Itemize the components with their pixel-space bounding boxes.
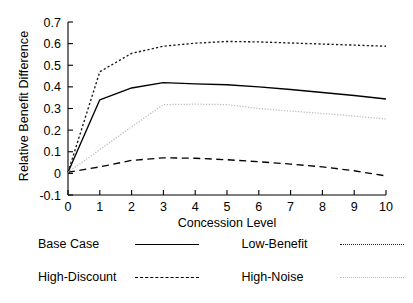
legend-item-high-noise: High-Noise	[207, 266, 413, 292]
x-tick-label: 2	[128, 200, 135, 214]
x-axis-ticks: 012345678910	[65, 190, 393, 214]
series-line-low-benefit	[68, 41, 386, 172]
legend-item-base-case: Base Case	[0, 233, 207, 259]
x-tick-label: 5	[224, 200, 231, 214]
legend-key-dashed-line	[135, 277, 199, 280]
legend-row: High-Discount High-Noise	[0, 266, 413, 292]
chart-figure: Relative Benefit Difference 0.70.60.50.4…	[0, 0, 413, 303]
x-tick-label: 10	[379, 200, 393, 214]
y-tick-label: 0.2	[44, 124, 61, 138]
x-tick-label: 0	[65, 200, 72, 214]
x-tick-label: 9	[351, 200, 358, 214]
y-tick-label: 0.4	[44, 80, 61, 94]
x-tick-label: 6	[255, 200, 262, 214]
x-tick-label: 3	[160, 200, 167, 214]
legend-key-dotted-line	[340, 244, 404, 247]
legend-row: Base Case Low-Benefit	[0, 233, 413, 259]
legend-item-low-benefit: Low-Benefit	[207, 233, 413, 259]
y-tick-label: 0.7	[44, 16, 61, 30]
axis-lines	[68, 22, 386, 195]
data-series-group	[68, 41, 386, 176]
legend-label: High-Noise	[242, 270, 304, 284]
y-tick-label: 0.3	[44, 102, 61, 116]
legend-key-solid-line	[135, 244, 199, 247]
series-line-base-case	[68, 83, 386, 173]
y-tick-label: 0	[54, 167, 61, 181]
chart-legend: Base Case Low-Benefit High-Discount High…	[0, 233, 413, 303]
series-line-high-discount	[68, 158, 386, 176]
legend-label: Base Case	[38, 237, 99, 251]
legend-key-fine-dotted-line	[340, 277, 404, 280]
x-tick-label: 4	[192, 200, 199, 214]
y-tick-label: -0.1	[39, 189, 61, 203]
legend-label: High-Discount	[38, 270, 117, 284]
legend-label: Low-Benefit	[242, 237, 308, 251]
y-tick-label: 0.1	[44, 145, 61, 159]
x-axis-title: Concession Level	[178, 216, 277, 230]
x-tick-label: 7	[287, 200, 294, 214]
x-tick-label: 8	[319, 200, 326, 214]
series-line-high-noise	[68, 104, 386, 172]
x-tick-label: 1	[96, 200, 103, 214]
legend-item-high-discount: High-Discount	[0, 266, 207, 292]
y-tick-label: 0.5	[44, 59, 61, 73]
y-tick-label: 0.6	[44, 37, 61, 51]
